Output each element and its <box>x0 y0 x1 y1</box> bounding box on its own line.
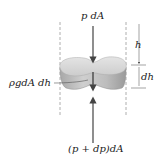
top-force-label: p dA <box>81 11 104 21</box>
thickness-label: dh <box>141 72 154 82</box>
bottom-force-label: (p + dp)dA <box>68 144 123 154</box>
depth-label: h <box>135 40 141 50</box>
weight-label: ρgdA dh <box>9 78 51 88</box>
